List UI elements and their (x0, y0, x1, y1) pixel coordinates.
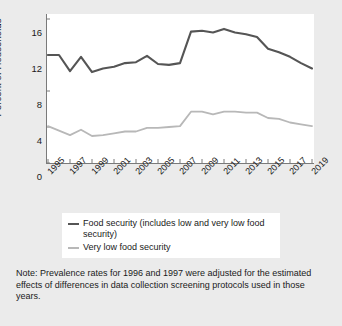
chart-legend: Food security (includes low and very low… (62, 213, 280, 258)
y-tick-label: 12 (20, 64, 42, 74)
plot-area (46, 14, 314, 164)
y-tick-label: 4 (20, 136, 42, 146)
legend-swatch-icon (68, 223, 79, 225)
y-tick-label: 8 (20, 100, 42, 110)
x-axis-ticks: 1995199719992001200320052007200920112013… (46, 166, 314, 206)
food-security-chart-figure: Percent of Households 0481216 1995199719… (0, 0, 342, 326)
legend-item: Very low food security (68, 242, 273, 253)
legend-item: Food security (includes low and very low… (68, 218, 273, 240)
chart-note: Note: Prevalence rates for 1996 and 1997… (16, 268, 328, 303)
data-series-group (48, 29, 312, 136)
line-chart-svg (46, 14, 314, 164)
y-axis-ticks: 0481216 (16, 14, 42, 164)
y-tick-label: 16 (20, 28, 42, 38)
legend-swatch-icon (68, 247, 79, 249)
y-tick-label: 0 (20, 172, 42, 182)
axis-lines (46, 14, 314, 164)
legend-label: Very low food security (83, 242, 171, 253)
series-line (48, 29, 312, 72)
series-line (48, 112, 312, 136)
y-axis-title: Percent of Households (0, 0, 3, 143)
legend-label: Food security (includes low and very low… (83, 218, 273, 240)
